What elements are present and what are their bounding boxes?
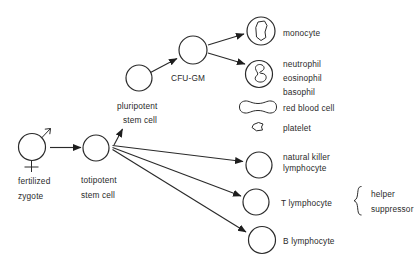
granulocyte-label-line3: basophil bbox=[283, 87, 315, 97]
b-lymphocyte-cell-icon bbox=[249, 227, 276, 254]
pluripotent-label-line2: stem cell bbox=[123, 115, 157, 125]
t-lymphocyte-cell-icon bbox=[243, 189, 269, 215]
arrow-cfu-gm-to-monocyte bbox=[208, 34, 244, 45]
pluripotent-cell-icon bbox=[126, 65, 152, 91]
totipotent-label-line2: stem cell bbox=[81, 190, 115, 200]
fertilized-zygote-label-line2: zygote bbox=[18, 191, 44, 201]
female-symbol-icon bbox=[25, 161, 39, 173]
t-lymphocyte-label: T lymphocyte bbox=[281, 198, 332, 208]
arrow-totipotent-to-natural-killer bbox=[113, 146, 244, 162]
suppressor-label: suppressor bbox=[371, 204, 414, 214]
arrow-pluripotent-to-cfu-gm bbox=[151, 59, 178, 73]
totipotent-cell-icon bbox=[83, 135, 109, 161]
natural-killer-cell-icon bbox=[246, 152, 272, 178]
differentiation-diagram: fertilized zygote totipotent stem cell p… bbox=[0, 0, 416, 268]
arrow-cfu-gm-to-granulocyte bbox=[208, 53, 245, 64]
fertilized-zygote-label-line1: fertilized bbox=[18, 176, 51, 186]
helper-label: helper bbox=[371, 189, 395, 199]
pluripotent-label-line1: pluripotent bbox=[117, 101, 158, 111]
granulocyte-label-line1: neutrophil bbox=[283, 59, 321, 69]
b-lymphocyte-label: B lymphocyte bbox=[283, 236, 335, 246]
fertilized-zygote-node bbox=[19, 129, 51, 173]
male-symbol-icon bbox=[42, 129, 51, 139]
monocyte-node bbox=[247, 17, 275, 45]
cfu-gm-cell-icon bbox=[179, 36, 207, 64]
monocyte-label: monocyte bbox=[283, 28, 320, 38]
arrow-totipotent-to-pluripotent bbox=[114, 129, 123, 145]
diagram-canvas: fertilized zygote totipotent stem cell p… bbox=[0, 0, 416, 268]
red-blood-cell-icon bbox=[240, 101, 277, 113]
red-blood-cell-label: red blood cell bbox=[283, 103, 334, 113]
totipotent-label-line1: totipotent bbox=[81, 175, 117, 185]
platelet-label: platelet bbox=[283, 123, 311, 133]
brace-icon bbox=[354, 187, 362, 216]
platelet-icon bbox=[252, 123, 263, 131]
granulocyte-node bbox=[246, 61, 273, 88]
cfu-gm-label: CFU-GM bbox=[171, 73, 205, 83]
granulocyte-label-line2: eosinophil bbox=[283, 73, 322, 83]
natural-killer-label-line1: natural killer bbox=[283, 152, 330, 162]
natural-killer-label-line2: lymphocyte bbox=[283, 163, 327, 173]
